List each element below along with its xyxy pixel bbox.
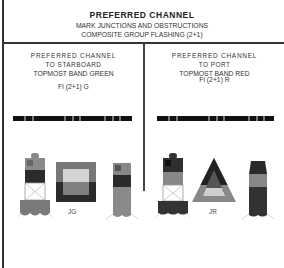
starboard-can-buoy-icon	[104, 163, 140, 221]
daymark-jg-label: JG	[68, 208, 76, 215]
frame-left-border	[2, 0, 4, 268]
starboard-light-character: Fl (2+1) G	[4, 83, 143, 90]
port-nun-buoy-icon	[240, 161, 276, 221]
port-light-rhythm-bar	[157, 116, 274, 121]
subtitle-flashing: COMPOSITE GROUP FLASHING (2+1)	[0, 31, 284, 38]
starboard-heading: PREFERRED CHANNEL	[4, 52, 143, 59]
starboard-lighted-buoy-icon	[18, 153, 54, 221]
port-lighted-buoy-icon	[156, 153, 192, 221]
port-light-character: Fl (2+1) R	[145, 76, 284, 83]
port-direction: TO PORT	[145, 61, 284, 68]
page-title: PREFERRED CHANNEL	[0, 10, 284, 20]
starboard-light-rhythm-bar	[13, 116, 132, 121]
subtitle-junctions: MARK JUNCTIONS AND OBSTRUCTIONS	[0, 22, 284, 29]
port-heading: PREFERRED CHANNEL	[145, 52, 284, 59]
starboard-column-text: PREFERRED CHANNEL TO STARBOARD TOPMOST B…	[4, 52, 143, 90]
port-column-text: PREFERRED CHANNEL TO PORT TOPMOST BAND R…	[145, 52, 284, 83]
daymark-jr-triangle-icon	[192, 158, 236, 204]
starboard-direction: TO STARBOARD	[4, 61, 143, 68]
starboard-band: TOPMOST BAND GREEN	[4, 70, 143, 77]
daymark-jg-square-icon	[56, 162, 96, 202]
daymark-jr-label: JR	[209, 208, 217, 215]
